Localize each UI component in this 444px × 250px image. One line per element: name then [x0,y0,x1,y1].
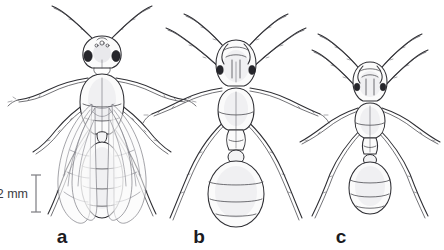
ant-a-eye-left [84,50,92,61]
panel-label-c: c [336,226,347,247]
ant-c-gaster [349,162,391,214]
ant-c-head [353,62,387,101]
panel-label-a: a [57,226,68,247]
ant-a-eye-right [112,50,120,61]
ant-b-eye-left [217,66,223,75]
ant-a-petiole [97,132,107,143]
ant-plate-illustration: a [0,0,444,250]
ant-c-eye-right [380,83,386,91]
ant-b-head [216,40,256,86]
ant-c-eye-left [354,83,360,91]
ant-b-gaster [208,161,264,227]
panel-label-b: b [193,226,205,247]
ant-b-eye-right [249,66,255,75]
figure-root: a [0,0,444,250]
scale-bar-label: 2 mm [0,187,28,201]
